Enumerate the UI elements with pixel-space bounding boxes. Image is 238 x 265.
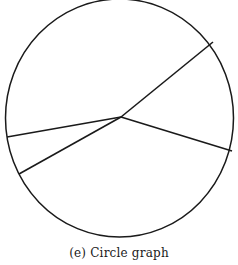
slice-divider-upper-right bbox=[121, 42, 213, 117]
circle-graph-figure: (e) Circle graph bbox=[0, 0, 238, 265]
slice-divider-right bbox=[121, 117, 232, 151]
figure-caption: (e) Circle graph bbox=[0, 246, 238, 260]
pie-chart bbox=[0, 0, 238, 245]
